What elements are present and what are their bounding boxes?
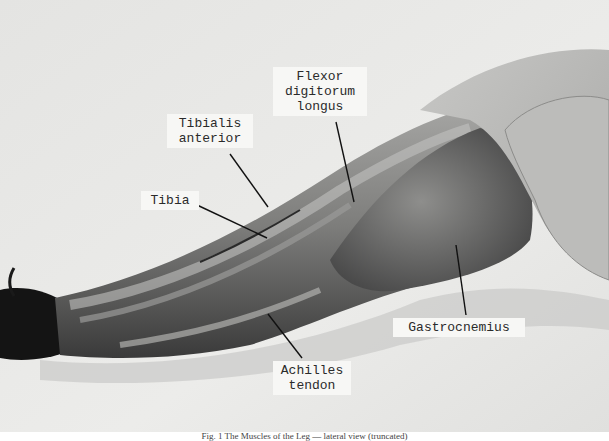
label-achilles-tendon: Achilles tendon [273, 361, 351, 395]
label-tibia: Tibia [141, 191, 199, 210]
label-flexor-digitorum-longus: Flexor digitorum longus [273, 67, 367, 116]
label-tibialis-anterior: Tibialis anterior [167, 114, 253, 148]
figure-caption: Fig. 1 The Muscles of the Leg — lateral … [0, 432, 609, 441]
label-gastrocnemius: Gastrocnemius [393, 318, 525, 337]
